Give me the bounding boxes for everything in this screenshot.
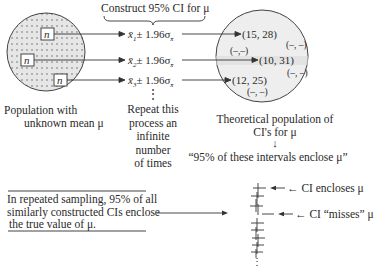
- interval-3: (12, 25): [232, 74, 267, 86]
- placeholder-interval-2: (–,–): [230, 45, 248, 57]
- population-caption-1: Population with: [4, 104, 77, 116]
- sample-size-label-2: n: [24, 54, 30, 66]
- placeholder-interval-1: (–, –): [286, 39, 307, 51]
- interval-2: (10, 31): [259, 54, 294, 66]
- theoretical-caption-1: Theoretical population of: [200, 113, 350, 125]
- repeat-text: Repeat this process an infinite number o…: [118, 103, 188, 171]
- sample-size-label-3: n: [57, 74, 63, 86]
- construct-label: Construct 95% CI for μ: [101, 2, 209, 14]
- placeholder-interval-3: (–, –): [287, 67, 308, 79]
- summary-text: In repeated sampling, 95% of all similar…: [7, 193, 160, 231]
- misses-label: ← CI “misses” μ: [295, 208, 374, 220]
- brace: [104, 16, 205, 25]
- stack-ellipsis: ⋮: [250, 257, 264, 267]
- population-caption-2: unknown mean μ: [24, 117, 104, 129]
- ci-stack-lines: [250, 183, 274, 258]
- sample-size-label-1: n: [44, 28, 50, 40]
- down-arrow-icon: ↓: [200, 137, 350, 149]
- interval-1: (15, 28): [242, 28, 277, 40]
- ci-formula-1: x̄1± 1.96σx̄: [128, 28, 173, 45]
- theoretical-quote: “95% of these intervals enclose μ”: [186, 151, 350, 163]
- placeholder-interval-4: (–, –): [247, 86, 268, 98]
- misses-pointer: [278, 212, 284, 216]
- encloses-label: ← CI encloses μ: [287, 182, 364, 194]
- summary-arrow: [222, 211, 228, 216]
- ci-formula-2: x̄2± 1.96σx̄: [128, 54, 173, 71]
- repeat-ellipsis: ⋮: [146, 88, 160, 100]
- population-circle: [0, 0, 100, 100]
- encloses-pointer: [270, 186, 276, 190]
